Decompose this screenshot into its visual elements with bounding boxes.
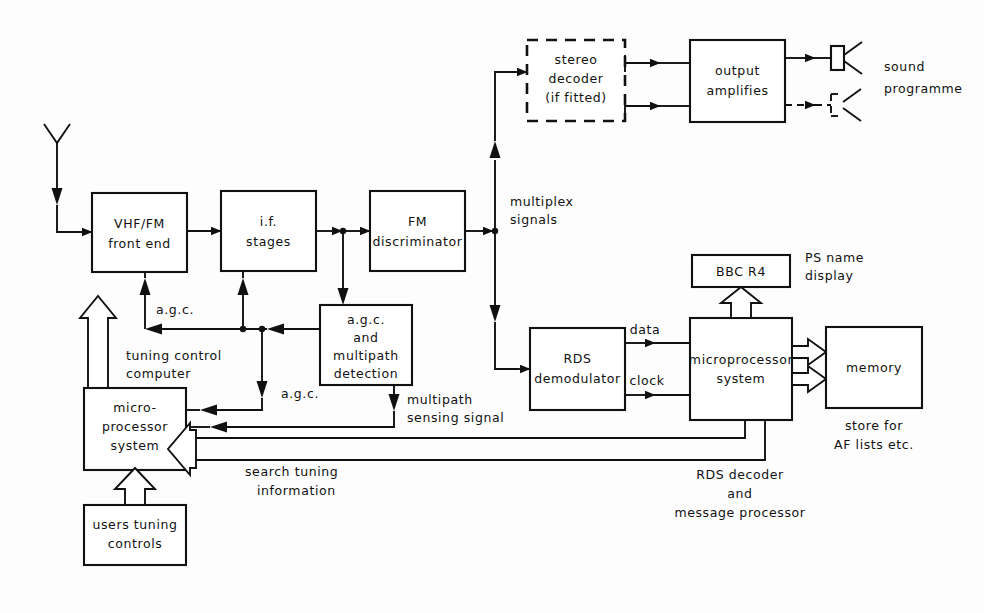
block-stereo-decoder-line2: decoder	[548, 71, 603, 86]
block-micro-left-line2: processor	[102, 419, 168, 434]
block-vhf-fm-line1: VHF/FM	[114, 216, 165, 231]
multipath-sensing-path: multipath sensing signal	[186, 385, 504, 433]
block-stereo-decoder-line1: stereo	[555, 52, 598, 67]
label-multipath-line2: sensing signal	[407, 410, 504, 425]
label-store-for-line2: AF lists etc.	[834, 437, 914, 452]
block-micro-left-line3: system	[111, 438, 160, 453]
block-bbc-r4-display[interactable]: BBC R4	[692, 255, 790, 287]
label-tuning-control-line1: tuning control	[126, 348, 222, 363]
block-users-tuning-controls[interactable]: users tuning controls	[84, 505, 186, 565]
block-microprocessor-system-right[interactable]: microprocessor system	[689, 318, 794, 420]
block-fm-disc-line2: discriminator	[372, 234, 462, 249]
users-tuning-bus	[115, 468, 155, 505]
diagram-canvas: VHF/FM front end i.f. stages FM discrimi…	[0, 0, 984, 613]
block-stereo-decoder[interactable]: stereo decoder (if fitted)	[527, 40, 625, 121]
speaker-optional-icon	[785, 89, 861, 121]
block-rds-demod-line2: demodulator	[534, 371, 621, 386]
block-output-amps-line1: output	[715, 63, 760, 78]
block-output-amps-line2: amplifies	[706, 83, 768, 98]
label-agc-top: a.g.c.	[156, 302, 194, 317]
label-clock: clock	[629, 373, 664, 388]
block-fm-discriminator[interactable]: FM discriminator	[370, 191, 465, 271]
label-ps-name-line2: display	[805, 268, 854, 283]
block-bbc-r4-line1: BBC R4	[716, 264, 766, 279]
label-rds-decoder-line1: RDS decoder	[696, 467, 784, 482]
label-data: data	[630, 322, 661, 337]
block-if-stages-line2: stages	[246, 234, 291, 249]
block-fm-disc-line1: FM	[408, 214, 427, 229]
speaker-icon	[785, 42, 862, 74]
memory-bus	[792, 339, 826, 392]
block-vhf-fm-line2: front end	[108, 236, 171, 251]
label-multipath-line1: multipath	[407, 392, 473, 407]
label-agc-bottom: a.g.c.	[281, 386, 319, 401]
ps-display-bus	[721, 287, 761, 318]
label-sound-line1: sound	[884, 59, 925, 74]
block-rds-demodulator[interactable]: RDS demodulator	[530, 328, 625, 410]
block-micro-left-line1: micro-	[113, 400, 156, 415]
block-memory[interactable]: memory	[826, 327, 922, 408]
tuning-control-computer-bus: tuning control computer	[80, 296, 222, 388]
label-sound-line2: programme	[884, 81, 963, 96]
label-multiplex-line1: multiplex	[510, 194, 574, 209]
label-search-tuning-line2: information	[257, 483, 336, 498]
block-stereo-decoder-line3: (if fitted)	[545, 90, 607, 105]
block-users-tuning-line2: controls	[108, 536, 163, 551]
block-microprocessor-system-left[interactable]: micro- processor system	[84, 388, 186, 470]
label-multiplex-line2: signals	[510, 212, 558, 227]
label-search-tuning-line1: search tuning	[245, 464, 338, 479]
label-ps-name-line1: PS name	[805, 250, 864, 265]
block-micro-right-line2: system	[717, 371, 766, 386]
block-agc-line2: and	[353, 330, 378, 345]
label-rds-decoder-line3: message processor	[674, 505, 805, 520]
block-vhf-fm-front-end[interactable]: VHF/FM front end	[92, 193, 187, 272]
block-output-amplifies[interactable]: output amplifies	[690, 40, 785, 122]
block-rds-demod-line1: RDS	[563, 351, 591, 366]
block-memory-line1: memory	[846, 360, 902, 375]
block-agc-line3: multipath	[333, 348, 399, 363]
block-micro-right-line1: microprocessor	[689, 352, 794, 367]
label-tuning-control-line2: computer	[126, 366, 191, 381]
antenna-icon	[44, 124, 92, 232]
block-if-stages-line1: i.f.	[260, 214, 277, 229]
block-if-stages[interactable]: i.f. stages	[221, 191, 316, 271]
stereo-channel-links	[625, 55, 690, 114]
label-store-for-line1: store for	[845, 418, 903, 433]
label-rds-decoder-line2: and	[727, 486, 752, 501]
block-users-tuning-line1: users tuning	[92, 517, 177, 532]
block-agc-line1: a.g.c.	[347, 312, 385, 327]
block-agc-multipath-detection[interactable]: a.g.c. and multipath detection	[320, 305, 412, 385]
block-agc-line4: detection	[334, 366, 398, 381]
data-clock-links: data clock	[625, 322, 690, 395]
